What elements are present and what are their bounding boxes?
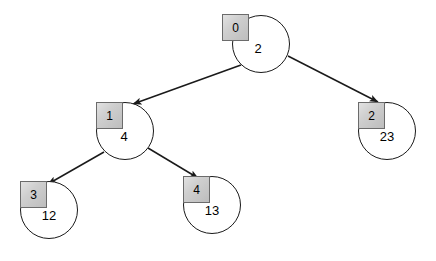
- tree-node-4[interactable]: 134: [183, 176, 241, 234]
- node-index-box-0[interactable]: 0: [222, 14, 249, 41]
- node-index-box-4[interactable]: 4: [183, 176, 210, 203]
- node-value-4: 13: [192, 204, 232, 217]
- tree-node-2[interactable]: 232: [358, 102, 416, 160]
- node-value-3: 12: [29, 209, 69, 222]
- tree-node-3[interactable]: 123: [20, 181, 78, 239]
- node-value-0: 2: [238, 42, 278, 55]
- tree-node-1[interactable]: 41: [96, 102, 154, 160]
- tree-diagram-canvas: 2041232123134: [0, 0, 436, 261]
- edge-1-to-4: [148, 148, 198, 178]
- tree-node-0[interactable]: 20: [232, 15, 290, 73]
- node-index-box-2[interactable]: 2: [358, 102, 385, 129]
- node-index-box-1[interactable]: 1: [96, 102, 123, 129]
- node-value-1: 4: [104, 130, 144, 143]
- edge-0-to-1: [133, 65, 241, 104]
- node-value-2: 23: [367, 130, 407, 143]
- node-index-box-3[interactable]: 3: [20, 181, 47, 208]
- edge-0-to-2: [288, 56, 378, 102]
